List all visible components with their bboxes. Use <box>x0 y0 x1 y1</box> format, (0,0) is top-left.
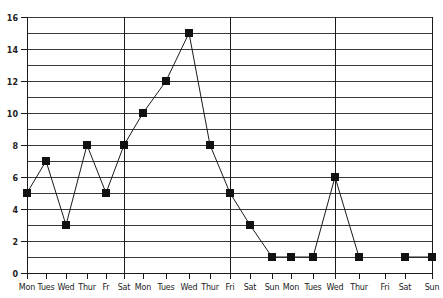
data-point-marker <box>226 189 234 197</box>
x-tick-label: Thur <box>349 283 368 292</box>
chart-canvas: 0246810121416 MonTuesWedThurFrSatMonTues… <box>0 0 443 298</box>
x-tick-label: Sun <box>265 283 280 292</box>
y-tick-label: 6 <box>12 174 18 183</box>
y-tick-label: 4 <box>12 206 18 215</box>
data-point-marker <box>401 253 409 261</box>
x-tick-label: Fri <box>381 283 390 292</box>
x-tick-label: Fri <box>226 283 235 292</box>
line-chart: 0246810121416 MonTuesWedThurFrSatMonTues… <box>0 0 443 298</box>
x-tick-label: Wed <box>181 283 198 292</box>
data-point-marker <box>23 189 31 197</box>
y-tick-label: 10 <box>7 110 19 119</box>
data-point-marker <box>120 141 128 149</box>
x-tick-label: Tues <box>156 283 174 292</box>
data-point-marker <box>162 77 170 85</box>
x-tick-label: Thur <box>200 283 219 292</box>
x-tick-label: Tues <box>303 283 321 292</box>
y-axis-ticks: 0246810121416 <box>7 14 27 279</box>
y-tick-label: 16 <box>7 14 19 23</box>
data-point-marker <box>102 189 110 197</box>
x-tick-label: Fr <box>103 283 111 292</box>
vertical-separators <box>125 17 433 279</box>
data-point-marker <box>42 157 50 165</box>
x-tick-label: Mon <box>283 283 299 292</box>
y-tick-label: 0 <box>12 270 18 279</box>
y-tick-label: 14 <box>7 46 19 55</box>
x-tick-label: Sat <box>399 283 412 292</box>
data-point-marker <box>268 253 276 261</box>
y-tick-label: 2 <box>12 238 18 247</box>
y-tick-label: 12 <box>7 78 18 87</box>
data-point-marker <box>309 253 317 261</box>
data-point-marker <box>62 221 70 229</box>
data-point-marker <box>287 253 295 261</box>
data-point-marker <box>246 221 254 229</box>
data-point-marker <box>428 253 436 261</box>
x-tick-label: Tues <box>36 283 54 292</box>
x-tick-label: Sun <box>425 283 440 292</box>
x-tick-label: Sat <box>118 283 131 292</box>
data-point-marker <box>185 29 193 37</box>
data-point-marker <box>355 253 363 261</box>
y-tick-label: 8 <box>12 142 18 151</box>
x-tick-label: Thur <box>77 283 96 292</box>
x-tick-label: Mon <box>19 283 35 292</box>
x-axis-ticks: MonTuesWedThurFrSatMonTuesWedThurFriSatS… <box>19 273 440 292</box>
x-tick-label: Sat <box>244 283 257 292</box>
horizontal-gridlines <box>27 18 432 258</box>
x-tick-label: Wed <box>58 283 75 292</box>
data-point-marker <box>83 141 91 149</box>
x-tick-label: Mon <box>135 283 151 292</box>
data-point-marker <box>206 141 214 149</box>
x-tick-label: Wed <box>327 283 344 292</box>
axes <box>21 17 432 279</box>
data-point-marker <box>139 109 147 117</box>
data-point-marker <box>331 173 339 181</box>
